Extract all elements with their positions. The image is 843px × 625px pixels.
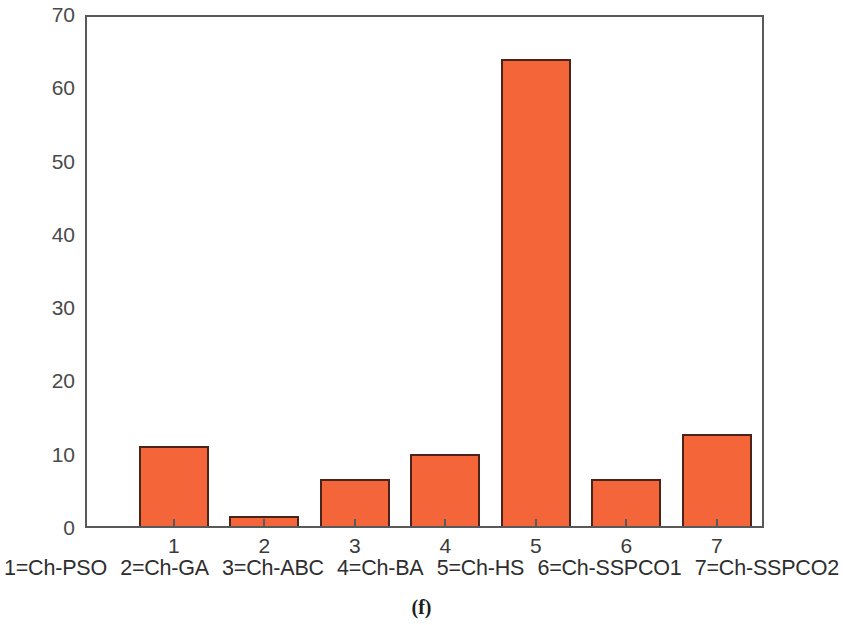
x-axis-tick-label: 1 bbox=[168, 534, 180, 558]
y-axis-tick-label: 10 bbox=[52, 444, 75, 465]
bars-layer bbox=[87, 17, 762, 526]
y-axis-tick-label: 60 bbox=[52, 77, 75, 98]
x-axis-tick-label: 4 bbox=[439, 534, 451, 558]
bar-7 bbox=[682, 434, 752, 526]
y-axis-tick-label: 40 bbox=[52, 224, 75, 245]
y-axis-tick-label: 0 bbox=[63, 517, 75, 538]
x-axis-tick-label: 2 bbox=[259, 534, 271, 558]
legend-entry-4: 4=Ch-BA bbox=[337, 556, 423, 581]
figure-caption: (f) bbox=[0, 596, 843, 619]
bar-5 bbox=[501, 59, 571, 526]
x-axis-tick bbox=[354, 519, 356, 528]
legend-entry-3: 3=Ch-ABC bbox=[222, 556, 324, 581]
plot-area bbox=[85, 15, 764, 528]
x-axis-tick bbox=[716, 519, 718, 528]
y-axis-tick-label: 50 bbox=[52, 151, 75, 172]
legend-entry-7: 7=Ch-SSPCO2 bbox=[695, 556, 839, 581]
x-axis-tick bbox=[535, 519, 537, 528]
bar-4 bbox=[410, 454, 480, 526]
legend-entry-1: 1=Ch-PSO bbox=[4, 556, 107, 581]
x-axis-tick-label: 7 bbox=[711, 534, 723, 558]
x-axis-tick-label: 3 bbox=[349, 534, 361, 558]
x-axis-tick bbox=[625, 519, 627, 528]
bar-1 bbox=[139, 446, 209, 526]
x-axis-tick bbox=[444, 519, 446, 528]
legend-entry-2: 2=Ch-GA bbox=[120, 556, 209, 581]
y-axis-tick-label: 70 bbox=[52, 4, 75, 25]
legend-entry-6: 6=Ch-SSPCO1 bbox=[537, 556, 681, 581]
legend-entry-5: 5=Ch-HS bbox=[437, 556, 525, 581]
bar-chart-figure: 010203040506070 1234567 1=Ch-PSO2=Ch-GA3… bbox=[0, 0, 843, 625]
x-axis-tick bbox=[263, 519, 265, 528]
legend: 1=Ch-PSO2=Ch-GA3=Ch-ABC4=Ch-BA5=Ch-HS6=C… bbox=[0, 556, 843, 581]
x-axis-tick bbox=[173, 519, 175, 528]
y-axis-tick-label: 30 bbox=[52, 297, 75, 318]
x-axis-tick-label: 6 bbox=[620, 534, 632, 558]
y-axis-tick-label: 20 bbox=[52, 370, 75, 391]
x-axis-tick-label: 5 bbox=[530, 534, 542, 558]
